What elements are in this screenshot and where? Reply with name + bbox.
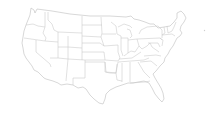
us-states-outline-map <box>0 0 206 120</box>
us-national-outline <box>22 8 186 104</box>
map-marker-dot <box>204 30 205 31</box>
